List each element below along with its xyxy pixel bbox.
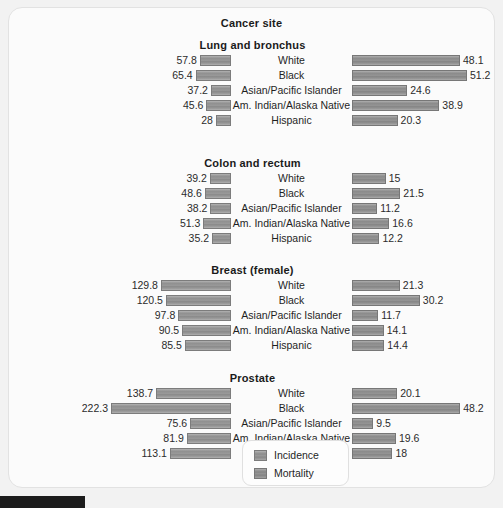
category-label: Hispanic	[231, 113, 352, 128]
group-title: Prostate	[9, 371, 496, 386]
mortality-cell: 15	[352, 171, 496, 186]
incidence-bar-track	[212, 233, 231, 244]
incidence-bar	[206, 100, 231, 111]
mortality-bar	[352, 310, 378, 321]
incidence-cell: 138.7	[9, 386, 231, 401]
mortality-bar-track	[352, 448, 392, 459]
mortality-bar-track	[352, 233, 379, 244]
chart-row: 222.3Black48.2	[9, 401, 496, 416]
chart-row: 129.8White21.3	[9, 278, 496, 293]
bottom-strip	[0, 496, 85, 508]
incidence-value-label: 90.5	[159, 323, 182, 338]
mortality-bar-track	[352, 418, 373, 429]
incidence-value-label: 35.2	[189, 231, 212, 246]
mortality-cell: 16.6	[352, 216, 496, 231]
incidence-value-label: 81.9	[163, 431, 186, 446]
mortality-value-label: 38.9	[439, 98, 462, 113]
category-label: Am. Indian/Alaska Native	[231, 216, 352, 231]
mortality-cell: 51.2	[352, 68, 496, 83]
category-label: White	[231, 386, 352, 401]
incidence-cell: 97.8	[9, 308, 231, 323]
mortality-bar-track	[352, 433, 396, 444]
mortality-value-label: 9.5	[373, 416, 391, 431]
chart-row: 48.6Black21.5	[9, 186, 496, 201]
incidence-bar	[178, 310, 231, 321]
incidence-value-label: 45.6	[183, 98, 206, 113]
incidence-value-label: 113.1	[141, 446, 170, 461]
incidence-bar	[182, 325, 231, 336]
mortality-bar	[352, 100, 439, 111]
incidence-cell: 129.8	[9, 278, 231, 293]
category-label: Black	[231, 68, 352, 83]
chart-row: 57.8White48.1	[9, 53, 496, 68]
mortality-cell: 21.3	[352, 278, 496, 293]
incidence-bar	[156, 388, 231, 399]
legend-item[interactable]: Incidence	[254, 446, 348, 464]
mortality-cell: 14.4	[352, 338, 496, 353]
mortality-value-label: 16.6	[389, 216, 412, 231]
incidence-bar	[111, 403, 231, 414]
incidence-bar-track	[185, 340, 231, 351]
incidence-bar-track	[206, 100, 231, 111]
mortality-bar-track	[352, 188, 400, 199]
legend-item[interactable]: Mortality	[254, 464, 348, 482]
incidence-bar-track	[156, 388, 231, 399]
incidence-bar	[185, 340, 231, 351]
mortality-bar	[352, 340, 384, 351]
incidence-bar-track	[216, 115, 231, 126]
mortality-cell: 48.1	[352, 53, 496, 68]
mortality-bar-track	[352, 100, 439, 111]
mortality-value-label: 11.2	[377, 201, 400, 216]
mortality-bar-track	[352, 85, 407, 96]
mortality-cell: 11.2	[352, 201, 496, 216]
mortality-cell: 20.1	[352, 386, 496, 401]
incidence-value-label: 48.6	[181, 186, 204, 201]
incidence-bar-track	[210, 173, 231, 184]
mortality-bar	[352, 233, 379, 244]
incidence-cell: 81.9	[9, 431, 231, 446]
chart-row: 85.5Hispanic14.4	[9, 338, 496, 353]
incidence-bar-track	[211, 85, 231, 96]
chart-row: 35.2Hispanic12.2	[9, 231, 496, 246]
mortality-value-label: 18	[392, 446, 407, 461]
chart-group: Colon and rectum39.2White1548.6Black21.5…	[9, 156, 496, 246]
incidence-cell: 45.6	[9, 98, 231, 113]
incidence-value-label: 222.3	[82, 401, 111, 416]
incidence-bar	[170, 448, 231, 459]
incidence-value-label: 138.7	[127, 386, 156, 401]
mortality-bar	[352, 433, 396, 444]
category-label: Asian/Pacific Islander	[231, 201, 352, 216]
incidence-bar-track	[161, 280, 231, 291]
mortality-value-label: 14.4	[384, 338, 407, 353]
incidence-cell: 35.2	[9, 231, 231, 246]
category-label: White	[231, 53, 352, 68]
mortality-cell: 14.1	[352, 323, 496, 338]
category-label: Black	[231, 293, 352, 308]
mortality-cell: 9.5	[352, 416, 496, 431]
mortality-bar	[352, 280, 400, 291]
mortality-bar	[352, 115, 398, 126]
mortality-bar	[352, 418, 373, 429]
category-label: Asian/Pacific Islander	[231, 83, 352, 98]
mortality-cell: 20.3	[352, 113, 496, 128]
mortality-bar-track	[352, 310, 378, 321]
incidence-value-label: 120.5	[137, 293, 166, 308]
legend-swatch-icon	[254, 450, 267, 461]
mortality-bar	[352, 188, 400, 199]
incidence-bar-track	[182, 325, 231, 336]
mortality-bar-track	[352, 115, 398, 126]
mortality-value-label: 20.3	[398, 113, 421, 128]
mortality-bar	[352, 55, 460, 66]
mortality-cell: 12.2	[352, 231, 496, 246]
page-title: Cancer site	[9, 17, 494, 29]
incidence-bar	[166, 295, 231, 306]
mortality-bar-track	[352, 388, 397, 399]
incidence-cell: 38.2	[9, 201, 231, 216]
mortality-value-label: 15	[386, 171, 401, 186]
mortality-bar-track	[352, 325, 384, 336]
mortality-bar	[352, 295, 420, 306]
chart-row: 97.8Asian/Pacific Islander11.7	[9, 308, 496, 323]
incidence-cell: 85.5	[9, 338, 231, 353]
mortality-bar-track	[352, 295, 420, 306]
group-title: Breast (female)	[9, 263, 496, 278]
